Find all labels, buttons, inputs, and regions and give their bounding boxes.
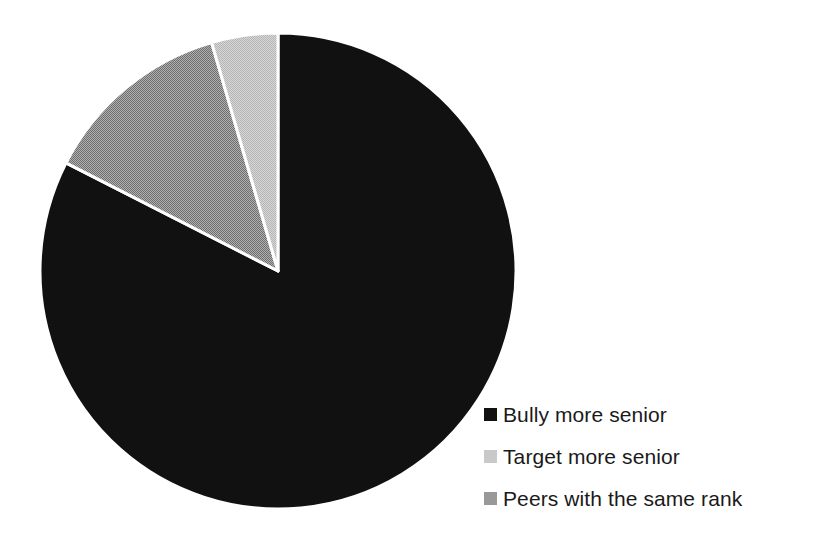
chart-legend: Bully more senior Target more senior Pee… [484, 393, 824, 519]
legend-item-label: Bully more senior [503, 404, 667, 425]
legend-item-label: Peers with the same rank [503, 488, 742, 509]
legend-item-bully-more-senior: Bully more senior [484, 393, 824, 435]
legend-item-label: Target more senior [503, 446, 680, 467]
pie-slice-group [40, 33, 516, 509]
square-swatch-icon [484, 408, 497, 421]
legend-item-peers-with-the-same-rank: Peers with the same rank [484, 477, 824, 519]
square-swatch-icon [484, 492, 497, 505]
square-swatch-icon [484, 450, 497, 463]
legend-item-target-more-senior: Target more senior [484, 435, 824, 477]
pie-chart-figure: Bully more senior Target more senior Pee… [0, 0, 830, 539]
